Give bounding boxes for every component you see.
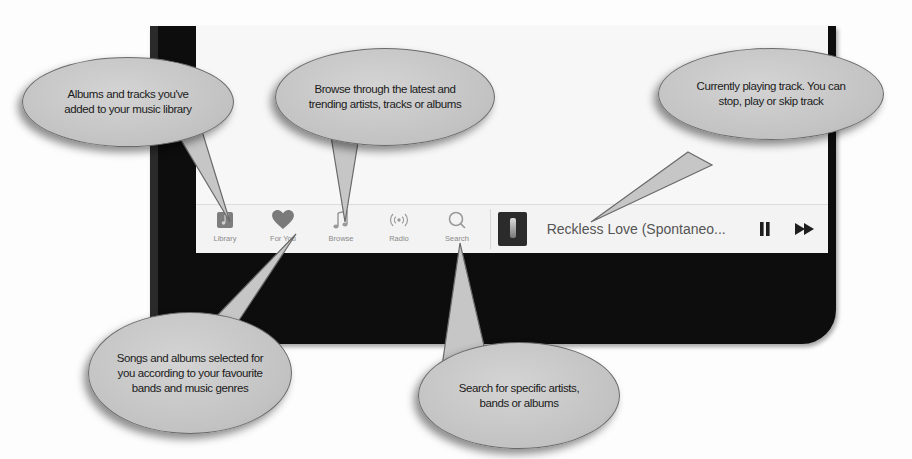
callout-now-playing: Currently playing track. You can stop, p… [658,48,884,140]
callout-library: Albums and tracks you've added to your m… [22,57,234,147]
callout-browse: Browse through the latest and trending a… [275,48,495,146]
callout-search: Search for specific artists, bands or al… [418,342,620,449]
callout-for-you: Songs and albums selected for you accord… [88,312,292,434]
